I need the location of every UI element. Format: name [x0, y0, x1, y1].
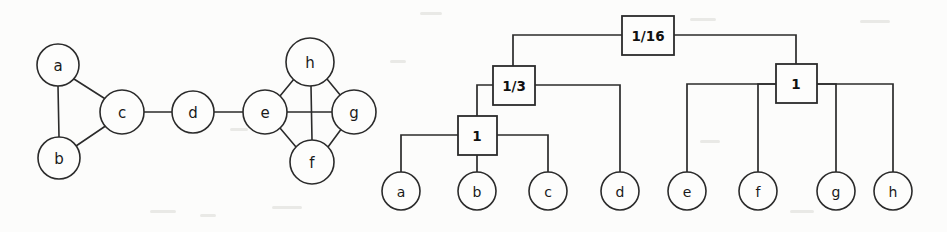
tree-node-abc[interactable]: 1 — [458, 116, 497, 155]
tree-node-efgh[interactable]: 1 — [776, 64, 817, 103]
graph-node-f[interactable]: f — [290, 140, 334, 184]
tree-leaf-g[interactable]: g — [817, 172, 855, 210]
tree-leaf-d[interactable]: d — [601, 172, 639, 210]
tree-link-abc-to-c — [497, 135, 548, 172]
tree-leaf-b[interactable]: b — [458, 172, 496, 210]
graph-node-b-label: b — [54, 150, 64, 168]
graph-edge-h-g — [327, 79, 341, 96]
graph-node-c[interactable]: c — [100, 90, 144, 134]
graph-node-g-label: g — [349, 104, 359, 122]
graph-node-a-label: a — [53, 57, 62, 75]
graph-edge-a-c — [74, 79, 107, 100]
tree-leaf-c-label: c — [544, 184, 552, 200]
graph-edge-h-f — [311, 86, 312, 140]
tree-leaf-d-label: d — [616, 184, 625, 200]
tree-node-root-label: 1/16 — [631, 28, 664, 44]
tree-link-efgh-to-f — [758, 84, 776, 172]
tree-leaves: a b c d e f g — [382, 172, 912, 210]
graph-edge-e-h — [280, 79, 294, 96]
tree-link-efgh-to-h — [817, 84, 893, 172]
tree-link-root-to-left-branch — [513, 35, 622, 66]
graph-edge-a-b — [58, 86, 59, 137]
tree-link-left-branch-to-abc — [477, 85, 493, 116]
tree-link-efgh-to-g — [817, 84, 836, 172]
graph-nodes: a b c d e f g — [37, 38, 376, 184]
tree-link-efgh-to-e — [687, 84, 776, 172]
tree-node-left-branch-label: 1/3 — [502, 78, 526, 94]
tree-leaf-h-label: h — [889, 184, 898, 200]
graph-node-g[interactable]: g — [332, 90, 376, 134]
tree-node-root[interactable]: 1/16 — [622, 16, 674, 55]
tree-leaf-c[interactable]: c — [529, 172, 567, 210]
graph-node-h[interactable]: h — [286, 38, 334, 86]
tree-leaf-e-label: e — [683, 184, 692, 200]
graph-node-f-label: f — [309, 154, 315, 172]
figure-canvas: a b c d e f g — [0, 0, 947, 232]
tree-leaf-b-label: b — [473, 184, 482, 200]
tree-node-left-branch[interactable]: 1/3 — [493, 66, 535, 105]
graph-node-a[interactable]: a — [37, 44, 79, 86]
graph-node-b[interactable]: b — [38, 137, 80, 179]
graph-node-c-label: c — [118, 104, 126, 122]
tree-leaf-e[interactable]: e — [668, 172, 706, 210]
tree-node-efgh-label: 1 — [791, 76, 800, 92]
tree-link-root-to-efgh — [674, 35, 796, 64]
graph-node-e[interactable]: e — [243, 90, 287, 134]
graph-node-d-label: d — [188, 104, 198, 122]
graph-edge-f-g — [328, 128, 342, 147]
graph-node-d[interactable]: d — [172, 91, 214, 133]
graph-edge-b-c — [76, 125, 107, 146]
graph-edge-e-f — [280, 128, 296, 147]
tree-leaf-g-label: g — [832, 184, 841, 200]
tree-link-abc-to-a — [401, 135, 458, 172]
graph-node-e-label: e — [260, 104, 269, 122]
tree-leaf-f[interactable]: f — [739, 172, 777, 210]
tree-leaf-a-label: a — [397, 184, 406, 200]
tree-node-abc-label: 1 — [472, 128, 481, 144]
graph-node-h-label: h — [305, 54, 315, 72]
tree-leaf-a[interactable]: a — [382, 172, 420, 210]
undirected-graph-panel: a b c d e f g — [0, 0, 947, 232]
tree-leaf-h[interactable]: h — [874, 172, 912, 210]
